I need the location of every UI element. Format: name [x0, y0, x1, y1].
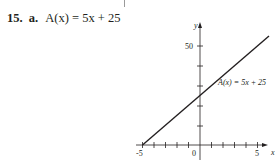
line-annotation: A(x) = 5x + 25	[217, 78, 266, 87]
x-tick-label-neg5: -5	[136, 149, 143, 158]
series-line-A	[143, 36, 270, 145]
x-tick-label-0: 0	[192, 149, 196, 158]
x-tick-label-5: 5	[255, 149, 259, 158]
y-axis-arrow-icon	[198, 22, 202, 28]
y-tick-label-50: 50	[185, 42, 193, 51]
line-chart: y x 50 -5 0 5 A(x) = 5x + 25	[0, 0, 280, 167]
x-axis-label: x	[270, 148, 275, 157]
x-axis-arrow-icon	[262, 143, 268, 147]
y-axis-label: y	[193, 21, 198, 30]
